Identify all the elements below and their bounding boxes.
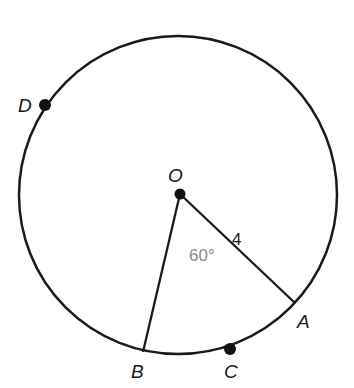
segment-OB (143, 194, 180, 352)
label-B: B (131, 361, 144, 382)
label-A: A (296, 311, 310, 332)
radius-length-label: 4 (232, 230, 241, 249)
label-D: D (18, 95, 32, 116)
point-D (39, 99, 51, 111)
label-O: O (168, 165, 183, 186)
point-O (175, 189, 186, 200)
point-C (224, 343, 236, 355)
circle-diagram: O A B C D 4 60° (0, 0, 354, 388)
label-C: C (224, 361, 238, 382)
angle-label: 60° (189, 246, 215, 265)
